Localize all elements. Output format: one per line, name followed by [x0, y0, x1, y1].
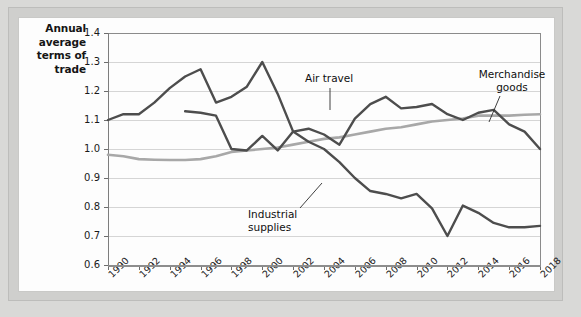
y-axis-tick-label: 0.9	[72, 172, 100, 183]
merchandise-goods-label-line-1: Merchandise	[474, 68, 550, 81]
y-axis-tick-label: 0.8	[72, 201, 100, 212]
y-axis-title-line-2: average	[10, 36, 86, 50]
gridline	[108, 207, 540, 208]
industrial-supplies-label-line-2: supplies	[248, 221, 297, 234]
y-axis-tick-label: 1.4	[72, 27, 100, 38]
merchandise-goods-label: Merchandise goods	[474, 68, 550, 93]
air-travel-label: Air travel	[305, 72, 353, 85]
gridline	[108, 236, 540, 237]
gridline	[108, 149, 540, 150]
gridline	[108, 178, 540, 179]
y-axis-tick-label: 1.2	[72, 85, 100, 96]
y-axis-tick-label: 1.3	[72, 56, 100, 67]
plot-border-top	[108, 33, 541, 34]
gridline	[108, 120, 540, 121]
merchandise-goods-label-line-2: goods	[474, 81, 550, 94]
y-axis-tick-label: 0.7	[72, 230, 100, 241]
y-axis-tick-label: 1.0	[72, 143, 100, 154]
gridline	[108, 62, 540, 63]
y-axis-tick-label: 0.6	[72, 259, 100, 270]
screenshot-frame: Annual average terms of trade 0.60.70.80…	[0, 0, 581, 317]
y-axis-tick-label: 1.1	[72, 114, 100, 125]
x-axis-line	[108, 265, 541, 267]
industrial-supplies-label-line-1: Industrial	[248, 208, 297, 221]
air-travel-label-text: Air travel	[305, 72, 353, 85]
plot-border-left	[108, 33, 109, 266]
industrial-supplies-label: Industrial supplies	[248, 208, 297, 233]
